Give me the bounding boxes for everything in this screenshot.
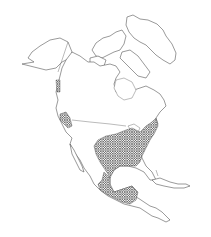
range-mexico-central-america [98, 172, 138, 204]
florida-keys [156, 170, 158, 176]
caribbean-islands [152, 178, 190, 188]
baffin-island [120, 50, 150, 78]
arctic-islands [92, 30, 126, 58]
range-map [0, 0, 211, 237]
